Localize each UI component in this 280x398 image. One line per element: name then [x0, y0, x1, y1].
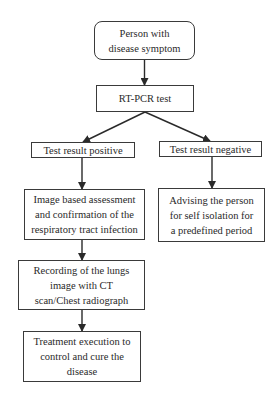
node-label-line: control and cure the — [33, 349, 130, 364]
node-label-line: disease — [33, 364, 130, 379]
node-rt-pcr-test: RT-PCR test — [96, 85, 194, 112]
node-label-line: and confirmation of the — [31, 207, 138, 222]
edge-rtpcr-to-negative — [145, 112, 210, 141]
node-test-result-positive: Test result positive — [31, 142, 135, 158]
node-person-with-disease-symptom: Person with disease symptom — [94, 21, 195, 60]
node-label-line: for self isolation for — [169, 208, 254, 223]
node-label-line: Recording of the lungs — [34, 263, 130, 278]
node-label-line: disease symptom — [108, 41, 180, 56]
edge-rtpcr-to-positive — [83, 112, 145, 142]
node-label-line: respiratory tract infection — [31, 222, 138, 237]
node-label-line: RT-PCR test — [119, 91, 171, 106]
node-label-line: Treatment execution to — [33, 334, 130, 349]
node-label-line: Person with — [108, 26, 180, 41]
flowchart-canvas: Person with disease symptom RT-PCR test … — [0, 0, 280, 398]
node-label-line: scan/Chest radiograph — [34, 293, 130, 308]
node-lungs-image-recording: Recording of the lungs image with CT sca… — [18, 260, 145, 310]
node-label-line: Test result positive — [43, 143, 122, 158]
node-treatment-execution: Treatment execution to control and cure … — [23, 331, 141, 382]
node-label-line: Advising the person — [169, 193, 254, 208]
node-label-line: image with CT — [34, 278, 130, 293]
node-image-based-assessment: Image based assessment and confirmation … — [24, 189, 145, 240]
node-test-result-negative: Test result negative — [159, 141, 262, 157]
node-label-line: Test result negative — [170, 142, 252, 157]
node-self-isolation-advice: Advising the person for self isolation f… — [158, 188, 265, 242]
node-label-line: a predefined period — [169, 223, 254, 238]
node-label-line: Image based assessment — [31, 192, 138, 207]
